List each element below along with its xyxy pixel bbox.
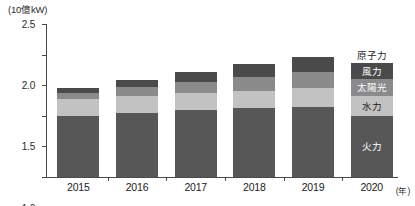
x-axis-unit-label: (年) xyxy=(396,184,411,196)
segment-thermal-2015[interactable] xyxy=(57,116,99,177)
legend-label-hydro: 水力 xyxy=(362,99,381,113)
stacked-bar-chart: (10億kW) 0.00.51.01.52.02.5 火力水力太陽光風力原子力 … xyxy=(0,0,415,206)
y-tick-label: 2.5 xyxy=(22,19,35,30)
bar-2017[interactable] xyxy=(175,72,217,177)
segment-solar-2017[interactable] xyxy=(175,82,217,93)
x-label-2015: 2015 xyxy=(67,181,90,193)
segment-solar-2016[interactable] xyxy=(116,87,158,96)
segment-wind-2018[interactable] xyxy=(233,64,275,77)
bar-2015[interactable] xyxy=(57,88,99,177)
bar-2018[interactable] xyxy=(233,64,275,177)
segment-solar-2015[interactable] xyxy=(57,93,99,99)
segment-thermal-2016[interactable] xyxy=(116,113,158,177)
segment-thermal-2018[interactable] xyxy=(233,108,275,177)
bar-2016[interactable] xyxy=(116,80,158,177)
x-tick xyxy=(342,177,343,181)
bar-2019[interactable] xyxy=(292,57,334,177)
segment-hydro-2019[interactable] xyxy=(292,88,334,106)
x-label-2018: 2018 xyxy=(243,181,266,193)
y-tick-label: 2.0 xyxy=(22,80,35,91)
segment-wind-2017[interactable] xyxy=(175,72,217,82)
segment-hydro-2016[interactable] xyxy=(116,96,158,113)
segment-solar-2019[interactable] xyxy=(292,72,334,88)
segment-wind-2020[interactable]: 風力 xyxy=(351,63,393,80)
x-tick xyxy=(225,177,226,181)
segment-solar-2020[interactable]: 太陽光 xyxy=(351,79,393,96)
x-tick xyxy=(166,177,167,181)
plot-area: 0.00.51.01.52.02.5 火力水力太陽光風力原子力 20152016… xyxy=(46,24,398,177)
segment-wind-2015[interactable] xyxy=(57,88,99,94)
segment-hydro-2017[interactable] xyxy=(175,93,217,110)
y-tick-label: 1.5 xyxy=(22,141,35,152)
segment-solar-2018[interactable] xyxy=(233,77,275,91)
bar-series-container: 火力水力太陽光風力原子力 xyxy=(46,24,398,177)
segment-wind-2016[interactable] xyxy=(116,80,158,87)
y-tick: 0.0 xyxy=(42,177,46,178)
x-label-2020: 2020 xyxy=(360,181,383,193)
bar-2020[interactable]: 火力水力太陽光風力原子力 xyxy=(351,63,393,177)
x-tick xyxy=(284,177,285,181)
x-label-2019: 2019 xyxy=(302,181,325,193)
legend-label-wind: 風力 xyxy=(362,64,381,78)
x-tick xyxy=(108,177,109,181)
x-label-2017: 2017 xyxy=(184,181,207,193)
x-axis-line xyxy=(46,177,398,178)
segment-thermal-2019[interactable] xyxy=(292,107,334,177)
segment-hydro-2020[interactable]: 水力 xyxy=(351,96,393,116)
y-tick-label: 1.0 xyxy=(22,202,35,206)
legend-label-nuclear: 原子力 xyxy=(357,48,386,62)
legend-label-thermal: 火力 xyxy=(362,139,381,153)
legend-label-solar: 太陽光 xyxy=(357,80,386,94)
segment-thermal-2020[interactable]: 火力 xyxy=(351,116,393,177)
segment-hydro-2018[interactable] xyxy=(233,91,275,109)
segment-hydro-2015[interactable] xyxy=(57,99,99,116)
x-label-2016: 2016 xyxy=(126,181,149,193)
segment-thermal-2017[interactable] xyxy=(175,110,217,177)
segment-wind-2019[interactable] xyxy=(292,57,334,72)
y-axis-unit-label: (10億kW) xyxy=(8,2,47,16)
